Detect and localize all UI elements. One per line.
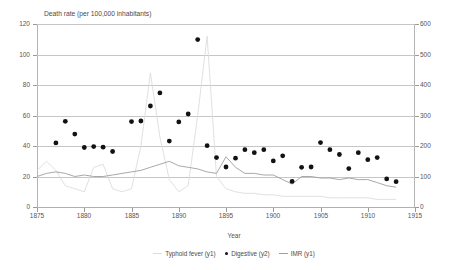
data-point [243, 147, 248, 152]
chart-container: Death rate (per 100,000 inhabitants) 020… [0, 0, 468, 270]
data-point [167, 139, 172, 144]
data-point [309, 165, 314, 170]
legend-item[interactable]: Typhoid fever (y1) [153, 250, 215, 257]
legend-label: Digestive (y2) [231, 250, 270, 257]
data-point [346, 166, 351, 171]
data-point [54, 141, 59, 146]
chart-legend: Typhoid fever (y1)Digestive (y2)IMR (y1) [0, 250, 468, 257]
data-point [261, 147, 266, 152]
data-point [214, 155, 219, 160]
data-point [271, 159, 276, 164]
data-point [375, 155, 380, 160]
data-point [224, 165, 229, 170]
data-point [158, 91, 163, 96]
legend-label: IMR (y1) [291, 250, 315, 257]
data-point [328, 147, 333, 152]
legend-label: Typhoid fever (y1) [165, 250, 215, 257]
data-point [299, 165, 304, 170]
data-point [91, 144, 96, 149]
data-point [63, 119, 68, 124]
legend-line-icon [153, 253, 162, 254]
series-line [37, 36, 396, 199]
legend-line-icon [279, 253, 288, 254]
legend-item[interactable]: IMR (y1) [279, 250, 315, 257]
data-point [337, 152, 342, 157]
data-point [205, 143, 210, 148]
data-point [176, 120, 181, 125]
data-point [365, 157, 370, 162]
data-point [318, 140, 323, 145]
data-point [384, 177, 389, 182]
legend-dot-icon [225, 252, 229, 256]
series-digestive [54, 37, 399, 184]
data-point [186, 112, 191, 117]
series-layer [0, 0, 468, 270]
data-point [129, 119, 134, 124]
data-point [110, 149, 115, 154]
series-typhoid-fever [37, 36, 396, 199]
data-point [252, 150, 257, 155]
data-point [101, 145, 106, 150]
data-point [394, 179, 399, 184]
data-point [72, 132, 77, 137]
data-point [356, 150, 361, 155]
x-axis-title: Year [0, 232, 468, 239]
data-point [280, 153, 285, 158]
data-point [139, 119, 144, 124]
data-point [148, 104, 153, 109]
data-point [290, 179, 295, 184]
data-point [82, 145, 87, 150]
data-point [195, 37, 200, 42]
legend-item[interactable]: Digestive (y2) [225, 250, 270, 257]
data-point [233, 156, 238, 161]
